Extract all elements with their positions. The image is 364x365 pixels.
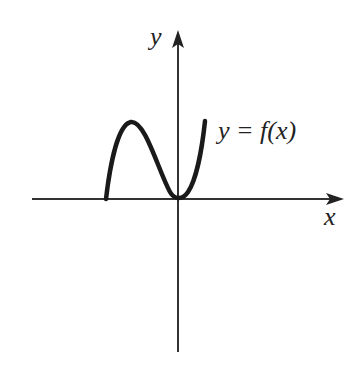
x-axis-label: x: [324, 204, 336, 230]
function-label: y = f(x): [218, 118, 296, 144]
y-axis-label: y: [150, 24, 162, 50]
graph-canvas: y x y = f(x): [0, 0, 364, 365]
function-curve: [106, 121, 205, 199]
graph-svg: [0, 0, 364, 365]
